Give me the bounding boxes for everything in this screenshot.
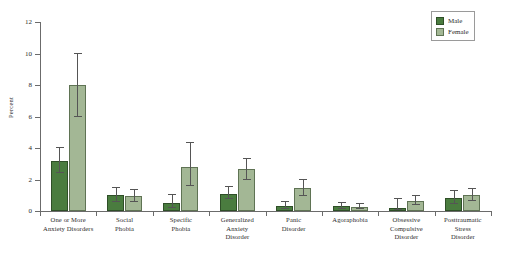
error-cap-lower [356,208,364,209]
error-cap-lower [74,116,82,117]
x-category-label: PanicDisorder [266,216,322,233]
bar-group [276,22,311,211]
error-cap-lower [130,201,138,202]
legend-label-female: Female [448,28,469,36]
error-cap-upper [225,186,233,187]
y-tick-label: 10 [18,50,32,58]
error-cap-lower [412,204,420,205]
error-cap-upper [468,188,476,189]
error-cap-lower [168,207,176,208]
bar-group [107,22,142,211]
x-category-label: SocialPhobia [96,216,152,233]
error-bar-male [116,188,117,201]
error-cap-upper [299,179,307,180]
error-bar-female [77,54,78,117]
y-tick-label: 2 [18,176,32,184]
x-category-label: PosttraumaticStressDisorder [435,216,491,242]
legend-item-female: Female [436,26,469,37]
error-cap-upper [450,190,458,191]
y-tick-label: 8 [18,81,32,89]
error-cap-upper [168,194,176,195]
x-category-label: SpecificPhobia [153,216,209,233]
error-cap-lower [468,200,476,201]
error-cap-upper [412,195,420,196]
error-cap-lower [186,185,194,186]
y-tick-label: 6 [18,113,32,121]
bar-group [163,22,198,211]
legend-swatch-male-icon [436,17,444,25]
legend-item-male: Male [436,15,469,26]
error-cap-upper [394,198,402,199]
anxiety-disorders-bar-chart: Percent 024681012 One or MoreAnxiety Dis… [0,0,505,259]
error-bar-male [59,148,60,173]
bar-group [389,22,424,211]
error-cap-upper [338,202,346,203]
bar-group [333,22,368,211]
error-cap-upper [56,147,64,148]
bar-group [220,22,255,211]
error-cap-lower [225,198,233,199]
bar-group [445,22,480,211]
error-cap-lower [450,203,458,204]
y-tick-label: 0 [18,207,32,215]
y-tick-label: 4 [18,144,32,152]
error-bar-female [246,159,247,179]
error-cap-upper [130,189,138,190]
error-cap-upper [74,53,82,54]
error-cap-upper [281,201,289,202]
error-cap-upper [112,187,120,188]
x-category-label: ObsessiveCompulsiveDisorder [378,216,434,242]
error-cap-lower [338,208,346,209]
x-category-label: GeneralizedAnxietyDisorder [209,216,265,242]
y-tick-label: 12 [18,18,32,26]
plot-area [40,22,491,211]
error-cap-lower [112,201,120,202]
error-bar-male [454,191,455,204]
legend: Male Female [431,11,475,41]
legend-swatch-female-icon [436,28,444,36]
error-bar-female [190,143,191,186]
legend-label-male: Male [448,17,462,25]
y-axis-label: Percent [7,78,14,138]
error-bar-female [303,180,304,197]
error-cap-upper [243,158,251,159]
x-category-label: One or MoreAnxiety Disorders [40,216,96,233]
error-cap-lower [243,179,251,180]
error-cap-lower [394,209,402,210]
x-category-label: Agoraphobia [322,216,378,225]
bar-group [51,22,86,211]
error-cap-lower [56,172,64,173]
error-cap-upper [356,203,364,204]
error-cap-lower [281,208,289,209]
error-cap-upper [186,142,194,143]
error-cap-lower [299,195,307,196]
x-tick [491,211,492,216]
